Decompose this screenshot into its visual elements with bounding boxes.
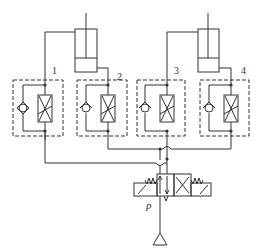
valve-1 bbox=[17, 85, 52, 140]
supply-label-p: p bbox=[146, 200, 152, 210]
valve-label-4: 4 bbox=[241, 66, 246, 76]
valve-3 bbox=[139, 85, 174, 131]
valve-label-2: 2 bbox=[117, 72, 122, 82]
valve-label-1: 1 bbox=[52, 66, 57, 76]
hydraulic-circuit-diagram bbox=[0, 0, 262, 250]
pressure-source bbox=[153, 196, 167, 245]
cylinder-2 bbox=[198, 13, 219, 72]
directional-valve bbox=[134, 174, 211, 201]
cylinder-1 bbox=[75, 13, 97, 72]
valve-4 bbox=[203, 85, 238, 149]
valve-label-3: 3 bbox=[174, 66, 179, 76]
manifold-lines bbox=[45, 131, 231, 174]
valve-2 bbox=[80, 85, 115, 149]
